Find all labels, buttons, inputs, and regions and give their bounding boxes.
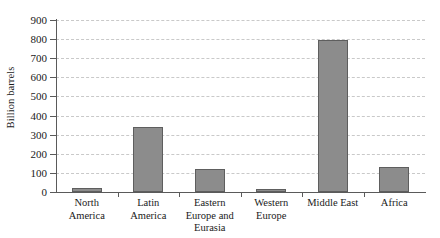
gridline <box>56 77 425 78</box>
gridline <box>56 116 425 117</box>
plot-area <box>56 20 425 192</box>
y-axis-tick-mark <box>50 96 56 97</box>
y-axis-tick-mark <box>50 77 56 78</box>
x-axis-tick-mark <box>364 192 365 197</box>
y-axis-tick-label: 400 <box>7 110 47 121</box>
gridline <box>56 135 425 136</box>
y-axis-tick-mark <box>50 173 56 174</box>
bar-chart: Billion barrels 010020030040050060070080… <box>0 0 440 238</box>
bar <box>379 167 409 192</box>
y-axis-tick-label: 700 <box>7 53 47 64</box>
y-axis-tick-label: 800 <box>7 34 47 45</box>
y-axis-line <box>56 19 57 193</box>
gridline <box>56 154 425 155</box>
x-axis-category-label: Africa <box>364 197 426 210</box>
y-axis-tick-label: 500 <box>7 91 47 102</box>
y-axis-tick-label: 200 <box>7 148 47 159</box>
gridline <box>56 20 425 21</box>
y-axis-tick-mark <box>50 154 56 155</box>
gridline <box>56 173 425 174</box>
x-axis-category-label: North America <box>56 197 118 222</box>
x-axis-tick-mark <box>118 192 119 197</box>
y-axis-tick-mark <box>50 135 56 136</box>
gridline <box>56 39 425 40</box>
x-axis-tick-mark <box>302 192 303 197</box>
gridline <box>56 96 425 97</box>
bar <box>318 40 348 192</box>
x-axis-tick-mark <box>241 192 242 197</box>
x-axis-category-label: Middle East <box>302 197 364 210</box>
bar <box>133 127 163 192</box>
gridline <box>56 58 425 59</box>
x-axis-tick-mark <box>179 192 180 197</box>
y-axis-tick-mark <box>50 39 56 40</box>
y-axis-tick-label: 100 <box>7 167 47 178</box>
y-axis-tick-label: 300 <box>7 129 47 140</box>
x-axis-category-label: Eastern Europe and Eurasia <box>179 197 241 235</box>
y-axis-tick-mark <box>50 58 56 59</box>
y-axis-tick-mark <box>50 116 56 117</box>
y-axis-tick-label: 900 <box>7 15 47 26</box>
y-axis-tick-mark <box>50 192 56 193</box>
y-axis-tick-mark <box>50 20 56 21</box>
x-axis-category-label: Latin America <box>118 197 180 222</box>
x-axis-category-label: Western Europe <box>241 197 303 222</box>
bar <box>195 169 225 192</box>
y-axis-tick-label: 600 <box>7 72 47 83</box>
y-axis-tick-label: 0 <box>7 187 47 198</box>
